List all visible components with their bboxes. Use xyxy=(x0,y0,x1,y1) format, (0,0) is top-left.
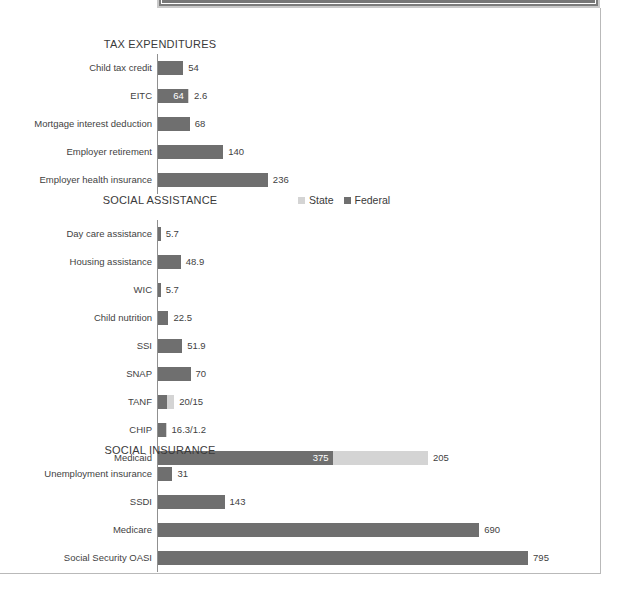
bar-category-label: Child tax credit xyxy=(0,57,152,79)
bar-segment-federal[interactable] xyxy=(158,117,190,131)
bar-row[interactable]: Unemployment insurance31 xyxy=(0,463,631,485)
bar-row[interactable]: SSDI143 xyxy=(0,491,631,513)
legend-item-federal[interactable]: Federal xyxy=(344,194,391,206)
bar-category-label: Child nutrition xyxy=(0,307,152,329)
bar-segment-federal[interactable] xyxy=(158,423,166,437)
bar-group[interactable] xyxy=(158,367,191,381)
bar-row[interactable]: Day care assistance5.7 xyxy=(0,223,631,245)
bar-group[interactable] xyxy=(158,173,268,187)
bar-category-label: SSDI xyxy=(0,491,152,513)
bar-segment-federal[interactable] xyxy=(158,395,167,409)
bar-segment-federal[interactable] xyxy=(158,495,225,509)
top-gray-panel-inner xyxy=(161,0,596,4)
bar-category-label: WIC xyxy=(0,279,152,301)
bar-value-label: 140 xyxy=(228,145,244,159)
bar-group[interactable] xyxy=(158,61,183,75)
bar-row[interactable]: SSI51.9 xyxy=(0,335,631,357)
bar-group[interactable] xyxy=(158,495,225,509)
bar-category-label: EITC xyxy=(0,85,152,107)
bar-segment-federal[interactable] xyxy=(158,467,172,481)
bar-value-label: 236 xyxy=(273,173,289,187)
bar-value-label: 690 xyxy=(484,523,500,537)
bar-group[interactable] xyxy=(158,117,190,131)
bar-value-label: 2.6 xyxy=(194,89,207,103)
bar-row[interactable]: Medicare690 xyxy=(0,519,631,541)
bar-group[interactable] xyxy=(158,145,223,159)
bar-value-label: 20/15 xyxy=(179,395,203,409)
legend-label: State xyxy=(309,194,334,206)
bar-segment-federal[interactable] xyxy=(158,283,161,297)
bar-segment-federal[interactable] xyxy=(158,227,161,241)
bar-category-label: Unemployment insurance xyxy=(0,463,152,485)
bar-segment-federal[interactable] xyxy=(158,339,182,353)
bar-group[interactable] xyxy=(158,467,172,481)
bar-inside-value-label: 64 xyxy=(158,89,188,103)
bar-segment-federal[interactable] xyxy=(158,523,479,537)
bar-segment-state[interactable] xyxy=(167,395,174,409)
legend-label: Federal xyxy=(355,194,391,206)
bar-value-label: 54 xyxy=(188,61,199,75)
panel-title: SOCIAL INSURANCE xyxy=(0,444,320,456)
bar-group[interactable] xyxy=(158,339,182,353)
bar-row[interactable]: Housing assistance48.9 xyxy=(0,251,631,273)
bar-segment-federal[interactable] xyxy=(158,367,191,381)
bar-group[interactable] xyxy=(158,283,161,297)
bar-category-label: TANF xyxy=(0,391,152,413)
bar-row[interactable]: TANF20/15 xyxy=(0,391,631,413)
bar-category-label: Employer retirement xyxy=(0,141,152,163)
bar-segment-federal[interactable] xyxy=(158,61,183,75)
bar-value-label: 16.3/1.2 xyxy=(172,423,206,437)
bar-row[interactable]: Child nutrition22.5 xyxy=(0,307,631,329)
bar-value-label: 795 xyxy=(533,551,549,565)
top-gray-panel xyxy=(157,0,600,8)
bar-group[interactable] xyxy=(158,255,181,269)
bar-segment-federal[interactable] xyxy=(158,255,181,269)
plot-area: Child tax credit54EITC642.6Mortgage inte… xyxy=(0,54,631,194)
panel-title: SOCIAL ASSISTANCE xyxy=(0,194,320,206)
legend-item-state[interactable]: State xyxy=(298,194,334,206)
bar-category-label: SSI xyxy=(0,335,152,357)
bar-segment-federal[interactable] xyxy=(158,145,223,159)
bar-value-label: 143 xyxy=(230,495,246,509)
plot-area: Unemployment insurance31SSDI143Medicare6… xyxy=(0,460,631,572)
bar-row[interactable]: Mortgage interest deduction68 xyxy=(0,113,631,135)
bar-group[interactable] xyxy=(158,395,174,409)
bar-segment-federal[interactable] xyxy=(158,173,268,187)
bar-category-label: Medicare xyxy=(0,519,152,541)
bar-category-label: SNAP xyxy=(0,363,152,385)
bar-row[interactable]: Child tax credit54 xyxy=(0,57,631,79)
bar-category-label: CHIP xyxy=(0,419,152,441)
plot-area: Day care assistance5.7Housing assistance… xyxy=(0,220,631,472)
bar-value-label: 22.5 xyxy=(173,311,192,325)
bar-value-label: 48.9 xyxy=(186,255,205,269)
bar-row[interactable]: Social Security OASI795 xyxy=(0,547,631,569)
bar-category-label: Day care assistance xyxy=(0,223,152,245)
bar-value-label: 31 xyxy=(177,467,188,481)
bar-value-label: 5.7 xyxy=(166,227,179,241)
bar-category-label: Social Security OASI xyxy=(0,547,152,569)
bar-row[interactable]: CHIP16.3/1.2 xyxy=(0,419,631,441)
legend-swatch-state-icon xyxy=(298,197,305,204)
bar-group[interactable] xyxy=(158,423,167,437)
bar-group[interactable] xyxy=(158,311,168,325)
bar-value-label: 68 xyxy=(195,117,206,131)
bar-category-label: Employer health insurance xyxy=(0,169,152,191)
bar-segment-federal[interactable] xyxy=(158,551,528,565)
bar-segment-federal[interactable] xyxy=(158,311,168,325)
bar-row[interactable]: Employer retirement140 xyxy=(0,141,631,163)
bar-group[interactable] xyxy=(158,227,161,241)
bar-row[interactable]: EITC642.6 xyxy=(0,85,631,107)
panel-title: TAX EXPENDITURES xyxy=(0,38,320,50)
bar-group[interactable] xyxy=(158,523,479,537)
bar-segment-state[interactable] xyxy=(166,423,167,437)
bar-row[interactable]: SNAP70 xyxy=(0,363,631,385)
bar-group[interactable] xyxy=(158,551,528,565)
bar-row[interactable]: WIC5.7 xyxy=(0,279,631,301)
bar-value-label: 5.7 xyxy=(166,283,179,297)
bar-segment-state[interactable] xyxy=(188,89,189,103)
legend-swatch-federal-icon xyxy=(344,197,351,204)
bar-row[interactable]: Employer health insurance236 xyxy=(0,169,631,191)
bar-category-label: Housing assistance xyxy=(0,251,152,273)
bar-value-label: 70 xyxy=(196,367,207,381)
spending-chart: TAX EXPENDITURESChild tax credit54EITC64… xyxy=(0,8,631,588)
